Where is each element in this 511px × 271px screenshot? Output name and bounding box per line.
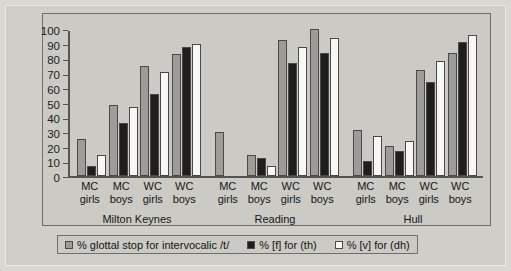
legend-swatch-icon xyxy=(335,241,343,249)
y-axis-tick-label: 40 xyxy=(47,113,60,126)
x-axis-label-gender: boys xyxy=(244,193,276,206)
region-label-reading: Reading xyxy=(212,212,338,228)
y-axis-tick-20: 20 xyxy=(47,143,68,156)
y-axis-tick-label: 0 xyxy=(54,172,60,185)
bar-v_for_dh-78.5 xyxy=(436,61,445,176)
legend-swatch-icon xyxy=(247,241,255,249)
bar-glottal_stop-25 xyxy=(77,139,86,176)
bar-subgroup-mc-boys xyxy=(246,31,278,176)
bar-subgroup-mc-girls xyxy=(76,31,108,176)
bar-groups xyxy=(70,31,483,176)
region-label-hull: Hull xyxy=(350,212,476,228)
bar-glottal_stop-30 xyxy=(215,132,224,176)
bar-f_for_th-91 xyxy=(458,42,467,176)
x-axis-group-labels: Milton KeynesReadingHull xyxy=(68,212,483,228)
bar-v_for_dh-7 xyxy=(267,166,276,176)
x-axis-label: MCgirls xyxy=(74,180,106,214)
y-axis-tick-50: 50 xyxy=(47,99,68,112)
bar-f_for_th-7 xyxy=(87,166,96,176)
y-axis-tick-label: 60 xyxy=(47,84,60,97)
bar-subgroup-wc-boys xyxy=(171,31,203,176)
x-axis-label-gender: boys xyxy=(382,193,414,206)
bar-subgroup-wc-girls xyxy=(277,31,309,176)
x-axis-label: WCgirls xyxy=(275,180,307,214)
x-labels-group: MCgirlsMCboysWCgirlsWCboys xyxy=(212,180,338,214)
x-axis-label-class: WC xyxy=(137,180,169,193)
bar-f_for_th-36 xyxy=(119,123,128,176)
bar-v_for_dh-94 xyxy=(330,38,339,176)
x-axis-label: WCboys xyxy=(169,180,201,214)
y-axis-tick-100: 100 xyxy=(41,25,68,38)
region-label-milton-keynes: Milton Keynes xyxy=(74,212,200,228)
y-axis-tick-70: 70 xyxy=(47,69,68,82)
legend-swatch-icon xyxy=(65,241,73,249)
bar-subgroup-mc-girls xyxy=(214,31,246,176)
y-axis-tick-label: 70 xyxy=(47,69,60,82)
bar-f_for_th-10.5 xyxy=(363,161,372,176)
bar-f_for_th-56 xyxy=(150,94,159,176)
bar-f_for_th-17 xyxy=(395,151,404,176)
legend-label: % glottal stop for intervocalic /t/ xyxy=(77,239,229,251)
legend-item-2[interactable]: % [f] for (th) xyxy=(247,239,316,251)
legend-label: % [v] for (dh) xyxy=(347,239,410,251)
x-labels-group: MCgirlsMCboysWCgirlsWCboys xyxy=(350,180,476,214)
bar-glottal_stop-14 xyxy=(247,155,256,176)
y-axis-tick-label: 20 xyxy=(47,143,60,156)
bar-subgroup-mc-girls xyxy=(352,31,384,176)
bar-group-milton-keynes xyxy=(76,31,202,176)
x-axis-label-class: WC xyxy=(169,180,201,193)
x-axis-label-gender: girls xyxy=(413,193,445,206)
bar-subgroup-wc-boys xyxy=(309,31,341,176)
bar-glottal_stop-83 xyxy=(172,54,181,176)
x-axis-label-class: WC xyxy=(275,180,307,193)
x-axis-label-class: WC xyxy=(307,180,339,193)
y-axis-tick-0: 0 xyxy=(54,172,68,185)
x-axis-label: MCgirls xyxy=(212,180,244,214)
x-axis-label: WCboys xyxy=(307,180,339,214)
y-axis-tick-60: 60 xyxy=(47,84,68,97)
chart-screenshot: 0102030405060708090100 MCgirlsMCboysWCgi… xyxy=(0,0,511,271)
x-axis-label: MCgirls xyxy=(350,180,382,214)
x-axis-label: MCboys xyxy=(106,180,138,214)
y-axis-tick-label: 80 xyxy=(47,54,60,67)
x-axis-label-class: MC xyxy=(244,180,276,193)
bar-v_for_dh-47 xyxy=(129,107,138,176)
legend-item-1[interactable]: % glottal stop for intervocalic /t/ xyxy=(65,239,229,251)
bar-glottal_stop-31 xyxy=(353,130,362,176)
y-axis-ticks: 0102030405060708090100 xyxy=(20,24,68,185)
bar-glottal_stop-75 xyxy=(140,66,149,176)
x-labels-group: MCgirlsMCboysWCgirlsWCboys xyxy=(74,180,200,214)
bar-f_for_th-88 xyxy=(182,47,191,176)
y-axis-tick-40: 40 xyxy=(47,113,68,126)
x-axis-label-gender: girls xyxy=(212,193,244,206)
x-axis-label-gender: boys xyxy=(169,193,201,206)
bar-v_for_dh-71 xyxy=(160,72,169,176)
x-axis-label-class: WC xyxy=(445,180,477,193)
y-axis-tick-label: 50 xyxy=(47,99,60,112)
y-axis-tick-label: 30 xyxy=(47,128,60,141)
x-axis-label: WCgirls xyxy=(137,180,169,214)
y-axis-tick-80: 80 xyxy=(47,54,68,67)
bar-v_for_dh-87.5 xyxy=(298,47,307,176)
legend-label: % [f] for (th) xyxy=(259,239,316,251)
x-axis-category-labels: MCgirlsMCboysWCgirlsWCboysMCgirlsMCboysW… xyxy=(68,180,483,214)
bar-glottal_stop-100 xyxy=(310,29,319,176)
legend-item-3[interactable]: % [v] for (dh) xyxy=(335,239,410,251)
bar-subgroup-wc-girls xyxy=(139,31,171,176)
y-axis-tick-10: 10 xyxy=(47,157,68,170)
bar-subgroup-mc-boys xyxy=(108,31,140,176)
x-axis-label-class: MC xyxy=(212,180,244,193)
x-axis-label-gender: girls xyxy=(74,193,106,206)
x-axis-label-class: MC xyxy=(106,180,138,193)
x-axis-label-gender: girls xyxy=(137,193,169,206)
bar-f_for_th-12 xyxy=(257,158,266,176)
x-axis-label-gender: girls xyxy=(350,193,382,206)
x-axis-label-gender: boys xyxy=(445,193,477,206)
bar-v_for_dh-90 xyxy=(192,44,201,176)
y-axis-tick-30: 30 xyxy=(47,128,68,141)
x-axis-label-class: MC xyxy=(74,180,106,193)
x-axis-label: MCboys xyxy=(382,180,414,214)
bar-group-hull xyxy=(352,31,478,176)
bar-subgroup-mc-boys xyxy=(384,31,416,176)
plot-area xyxy=(68,31,483,178)
